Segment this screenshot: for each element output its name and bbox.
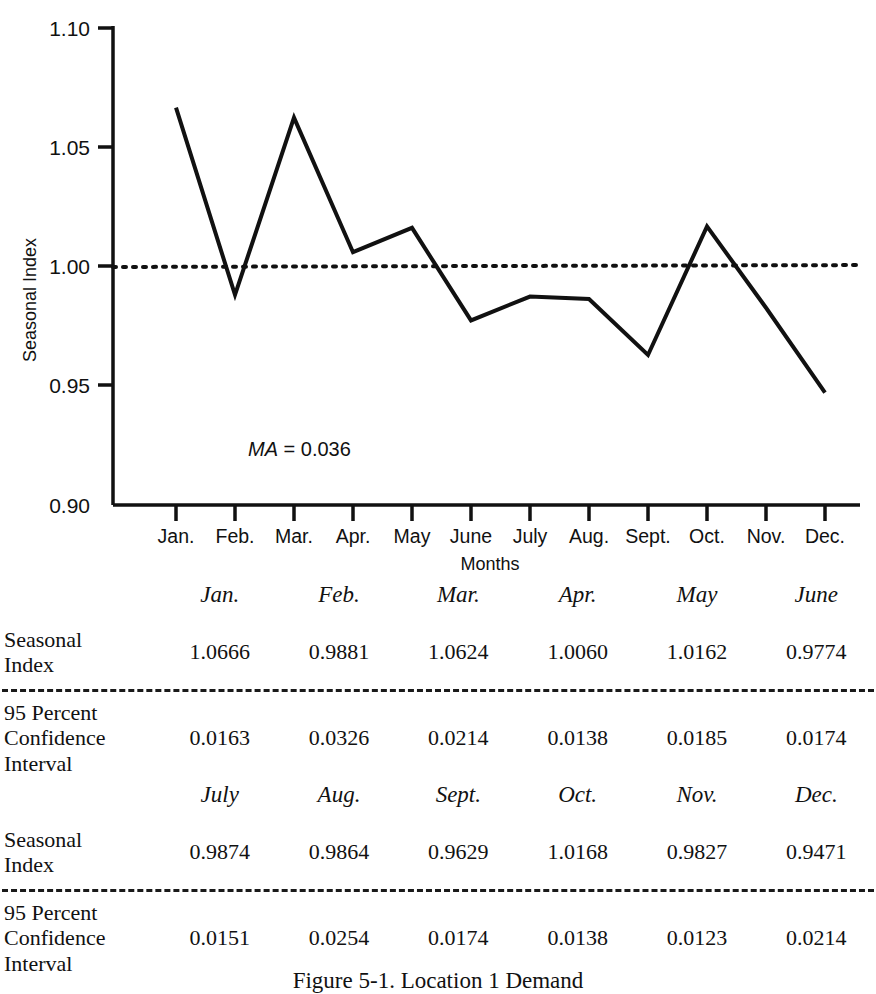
column-header-month: Dec.: [757, 778, 876, 818]
table-cell: 0.9471: [757, 818, 876, 886]
table-cell: 1.0168: [518, 818, 637, 886]
column-header-month: Feb.: [279, 578, 398, 618]
table-dashed-separator: [2, 689, 874, 692]
ma-annotation-value: = 0.036: [278, 438, 351, 460]
x-tick-label-dec: Dec.: [805, 525, 845, 547]
table-cell: 1.0060: [518, 618, 637, 686]
y-axis-ticks: [98, 28, 113, 385]
x-tick-label-jan: Jan.: [158, 525, 195, 547]
y-tick-label-095: 0.95: [49, 374, 90, 397]
column-header-month: July: [160, 778, 279, 818]
table-cell: 0.0326: [279, 695, 398, 781]
table-corner: [0, 778, 160, 818]
table-cell: 1.0666: [160, 618, 279, 686]
ma-annotation-symbol: MA: [248, 438, 278, 460]
figure-caption: Figure 5-1. Location 1 Demand: [0, 968, 876, 994]
seasonal-index-line: [176, 108, 825, 393]
row-label-seasonal-index: Seasonal Index: [0, 818, 160, 886]
column-header-month: May: [637, 578, 756, 618]
x-tick-label-mar: Mar.: [275, 525, 313, 547]
y-axis-title: Seasonal Index: [20, 238, 40, 362]
table-cell: 0.0214: [399, 695, 518, 781]
table-dashed-separator: [2, 889, 874, 892]
table-cell: 0.0185: [637, 695, 756, 781]
y-tick-label-090: 0.90: [49, 494, 90, 517]
row-label-seasonal-index: Seasonal Index: [0, 618, 160, 686]
seasonal-index-chart: 1.10 1.05 1.00 0.95 0.90 Seasonal Index …: [0, 0, 876, 572]
table-cell: 1.0162: [637, 618, 756, 686]
x-axis-title: Months: [460, 554, 519, 572]
column-header-month: Mar.: [399, 578, 518, 618]
x-tick-label-june: June: [450, 525, 492, 547]
ma-annotation: MA = 0.036: [248, 438, 351, 460]
table-row: Seasonal Index 0.9874 0.9864 0.9629 1.01…: [0, 818, 876, 886]
x-tick-label-july: July: [513, 525, 548, 547]
column-header-month: June: [757, 578, 876, 618]
table-header-row: Jan. Feb. Mar. Apr. May June: [0, 578, 876, 618]
x-tick-label-may: May: [394, 525, 431, 547]
x-tick-label-nov: Nov.: [747, 525, 786, 547]
x-tick-label-feb: Feb.: [215, 525, 254, 547]
column-header-month: Oct.: [518, 778, 637, 818]
column-header-month: Aug.: [279, 778, 398, 818]
data-table: Jan. Feb. Mar. Apr. May June Seasonal In…: [0, 578, 876, 686]
column-header-month: Apr.: [518, 578, 637, 618]
column-header-month: Sept.: [399, 778, 518, 818]
x-tick-label-oct: Oct.: [689, 525, 725, 547]
x-axis-ticks: [176, 505, 825, 521]
table-cell: 0.0163: [160, 695, 279, 781]
chart-canvas: 1.10 1.05 1.00 0.95 0.90 Seasonal Index …: [0, 0, 876, 572]
x-tick-label-aug: Aug.: [569, 525, 609, 547]
table-cell: 0.0138: [518, 695, 637, 781]
x-tick-label-apr: Apr.: [336, 525, 371, 547]
data-table: 95 Percent Confidence Interval 0.0163 0.…: [0, 695, 876, 781]
x-tick-label-sept: Sept.: [625, 525, 671, 547]
table-row: 95 Percent Confidence Interval 0.0163 0.…: [0, 695, 876, 781]
table-cell: 0.0174: [757, 695, 876, 781]
y-tick-label-110: 1.10: [49, 17, 90, 40]
column-header-month: Jan.: [160, 578, 279, 618]
table-header-row: July Aug. Sept. Oct. Nov. Dec.: [0, 778, 876, 818]
table-cell: 1.0624: [399, 618, 518, 686]
table-row: Seasonal Index 1.0666 0.9881 1.0624 1.00…: [0, 618, 876, 686]
y-tick-label-100: 1.00: [49, 255, 90, 278]
table-cell: 0.9629: [399, 818, 518, 886]
table-cell: 0.9881: [279, 618, 398, 686]
table-cell: 0.9827: [637, 818, 756, 886]
table-corner: [0, 578, 160, 618]
column-header-month: Nov.: [637, 778, 756, 818]
data-table: July Aug. Sept. Oct. Nov. Dec. Seasonal …: [0, 778, 876, 886]
table-cell: 0.9774: [757, 618, 876, 686]
table-cell: 0.9874: [160, 818, 279, 886]
row-label-confidence-interval: 95 Percent Confidence Interval: [0, 695, 160, 781]
seasonal-index-table-first-half: Jan. Feb. Mar. Apr. May June Seasonal In…: [0, 578, 876, 781]
table-cell: 0.9864: [279, 818, 398, 886]
y-tick-label-105: 1.05: [49, 136, 90, 159]
seasonal-index-table-second-half: July Aug. Sept. Oct. Nov. Dec. Seasonal …: [0, 778, 876, 981]
